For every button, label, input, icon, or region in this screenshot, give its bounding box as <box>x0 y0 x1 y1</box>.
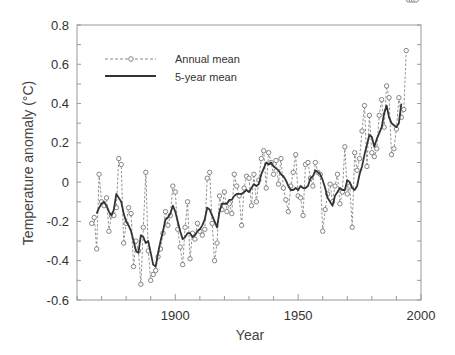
x-axis-title: Year <box>236 327 265 343</box>
annual-data-point <box>180 262 184 266</box>
annual-data-point <box>166 223 170 227</box>
y-tick-label: 0.8 <box>51 18 69 33</box>
y-axis-title: Temperature anomaly (°C) <box>20 81 36 245</box>
annual-data-point <box>372 154 376 158</box>
annual-data-point <box>121 241 125 245</box>
annual-data-point <box>129 211 133 215</box>
annual-data-point <box>402 107 406 111</box>
plot-frame <box>77 25 421 300</box>
annual-data-point <box>171 184 175 188</box>
annual-data-point <box>90 221 94 225</box>
annual-data-point <box>345 192 349 196</box>
annual-data-point <box>117 156 121 160</box>
annual-data-point <box>217 194 221 198</box>
annual-data-point <box>321 229 325 233</box>
y-tick-label: 0.4 <box>51 96 69 111</box>
annual-data-point <box>205 176 209 180</box>
annual-data-point <box>360 129 364 133</box>
annual-data-point <box>254 200 258 204</box>
annual-data-point <box>389 152 393 156</box>
annual-data-point <box>276 182 280 186</box>
annual-data-point <box>249 204 253 208</box>
annual-data-point <box>306 160 310 164</box>
annual-data-point <box>266 150 270 154</box>
annual-data-point <box>259 156 263 160</box>
annual-data-point <box>104 196 108 200</box>
annual-data-point <box>264 186 268 190</box>
annual-data-point <box>375 147 379 151</box>
annual-data-point <box>235 184 239 188</box>
annual-data-point <box>313 160 317 164</box>
temperature-chart: -0.6-0.4-0.200.20.40.60.8 190019502000 A… <box>0 0 455 355</box>
annual-data-point <box>222 190 226 194</box>
annual-data-point <box>149 278 153 282</box>
annual-data-point <box>397 95 401 99</box>
annual-data-point <box>293 152 297 156</box>
annual-data-point <box>252 172 256 176</box>
annual-data-point <box>230 211 234 215</box>
annual-data-point <box>367 113 371 117</box>
annual-data-point <box>357 156 361 160</box>
annual-data-point <box>94 247 98 251</box>
annual-data-point <box>247 176 251 180</box>
annual-data-point <box>311 184 315 188</box>
annual-data-point <box>119 162 123 166</box>
annual-data-point <box>188 257 192 261</box>
annual-data-point <box>298 196 302 200</box>
annual-data-point <box>144 170 148 174</box>
annual-data-point <box>163 209 167 213</box>
legend-5yr-label: 5-year mean <box>175 71 237 83</box>
annual-data-point <box>185 200 189 204</box>
annual-data-point <box>173 190 177 194</box>
annual-data-point <box>333 184 337 188</box>
annual-data-point <box>242 186 246 190</box>
annual-data-point <box>392 147 396 151</box>
annual-data-point <box>274 158 278 162</box>
annual-data-point <box>379 97 383 101</box>
annual-data-point <box>195 221 199 225</box>
annual-data-point <box>225 209 229 213</box>
plot-border <box>77 25 421 300</box>
y-tick-label: 0 <box>62 175 69 190</box>
annual-data-point <box>215 241 219 245</box>
annual-data-point <box>200 233 204 237</box>
y-tick-label: 0.6 <box>51 57 69 72</box>
annual-data-point <box>207 170 211 174</box>
x-axis: 190019502000 <box>77 294 435 323</box>
x-tick-label: 2000 <box>407 308 436 323</box>
annual-data-point <box>239 223 243 227</box>
y-tick-label: 0.2 <box>51 135 69 150</box>
annual-data-point <box>328 182 332 186</box>
annual-data-point <box>343 145 347 149</box>
annual-data-point <box>97 172 101 176</box>
annual-data-point <box>203 227 207 231</box>
annual-data-point <box>271 172 275 176</box>
x-tick-label: 1950 <box>284 308 313 323</box>
annual-data-point <box>141 225 145 229</box>
annual-data-point <box>107 229 111 233</box>
annual-data-point <box>281 186 285 190</box>
annual-data-point <box>210 221 214 225</box>
annual-data-point <box>193 237 197 241</box>
annual-data-point <box>301 213 305 217</box>
annual-data-point <box>212 259 216 263</box>
y-tick-label: -0.4 <box>47 253 69 268</box>
annual-data-point <box>139 282 143 286</box>
annual-data-point <box>262 149 266 153</box>
five-year-mean-series <box>97 104 402 267</box>
annual-data-point <box>153 268 157 272</box>
annual-data-point <box>355 168 359 172</box>
annual-data-point <box>350 225 354 229</box>
legend-annual-label: Annual mean <box>175 53 240 65</box>
y-tick-label: -0.2 <box>47 214 69 229</box>
annual-data-point <box>291 170 295 174</box>
annual-data-point <box>362 103 366 107</box>
annual-data-point <box>377 113 381 117</box>
annual-data-point <box>279 156 283 160</box>
annual-data-point <box>323 207 327 211</box>
legend-annual-marker-icon <box>129 57 134 62</box>
y-tick-label: -0.6 <box>47 293 69 308</box>
annual-data-point <box>352 150 356 154</box>
legend: Annual mean 5-year mean <box>105 53 240 83</box>
annual-data-point <box>387 95 391 99</box>
